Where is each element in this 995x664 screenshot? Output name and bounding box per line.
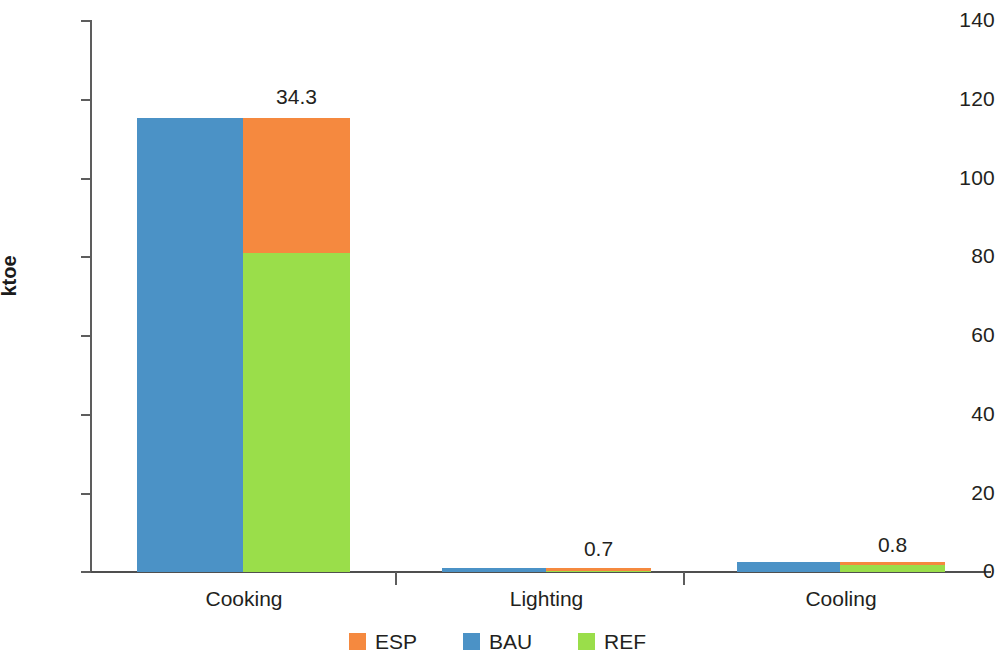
y-tick-120 (81, 99, 91, 101)
bar-cooling-bau[interactable] (737, 562, 840, 572)
legend-item-ref[interactable]: REF (578, 631, 646, 652)
y-tick-140 (81, 20, 91, 22)
y-tick-80 (81, 256, 91, 258)
y-tick-0 (81, 571, 91, 573)
legend-label-ref: REF (604, 631, 646, 652)
category-separator-2 (683, 572, 685, 585)
bar-lighting-esp[interactable] (546, 568, 651, 571)
bar-cooling-ref[interactable] (840, 565, 945, 572)
y-tick-40 (81, 414, 91, 416)
legend-label-esp: ESP (375, 631, 417, 652)
legend-swatch-ref-icon (578, 633, 595, 650)
bar-cooking-ref[interactable] (243, 253, 350, 572)
bar-cooling-esp[interactable] (840, 562, 945, 565)
category-label-cooking: Cooking (137, 588, 351, 609)
y-tick-20 (81, 493, 91, 495)
value-label-lighting: 0.7 (546, 538, 651, 559)
value-label-cooling: 0.8 (840, 534, 945, 555)
category-label-cooling: Cooling (737, 588, 945, 609)
legend: ESP BAU REF (0, 631, 995, 652)
y-axis-title: ktoe (0, 271, 21, 297)
legend-swatch-esp-icon (349, 633, 366, 650)
legend-label-bau: BAU (489, 631, 532, 652)
legend-item-esp[interactable]: ESP (349, 631, 417, 652)
y-tick-100 (81, 178, 91, 180)
legend-item-bau[interactable]: BAU (463, 631, 532, 652)
bar-lighting-bau[interactable] (442, 568, 546, 572)
category-label-lighting: Lighting (442, 588, 651, 609)
plot-area: 34.3 0.7 0.8 (91, 20, 991, 572)
bar-chart: ktoe 140 120 100 80 60 40 20 0 34.3 0.7 (0, 0, 995, 664)
value-label-cooking: 34.3 (243, 86, 350, 107)
bar-cooking-bau[interactable] (137, 118, 243, 572)
y-tick-60 (81, 335, 91, 337)
bar-cooking-esp[interactable] (243, 118, 350, 253)
legend-swatch-bau-icon (463, 633, 480, 650)
bar-lighting-ref[interactable] (546, 571, 651, 573)
category-separator-1 (395, 572, 397, 585)
